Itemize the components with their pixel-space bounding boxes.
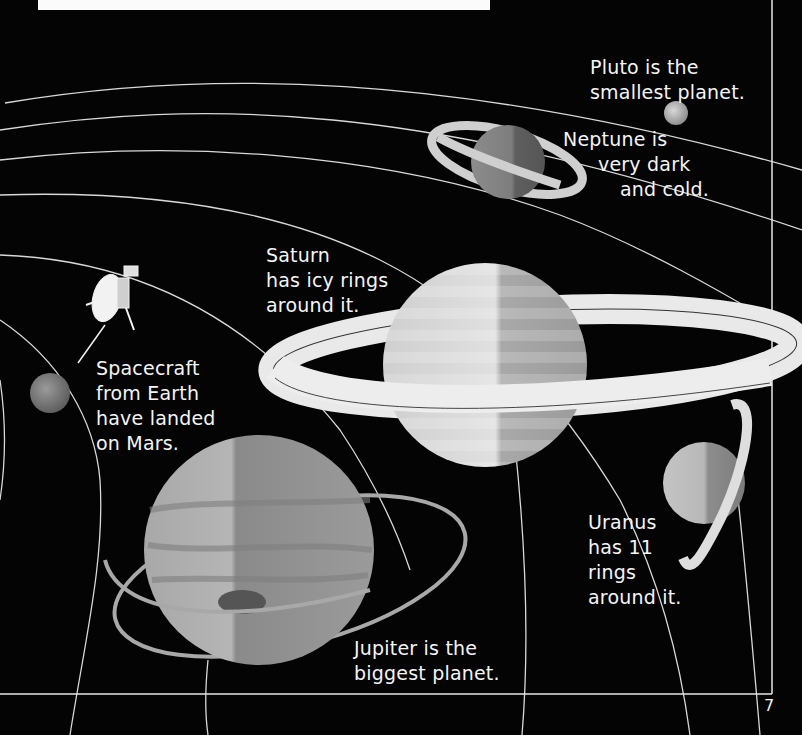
neptune-caption-line2: very dark [598,152,690,177]
neptune-caption-line3: and cold. [620,177,709,202]
uranus-caption: Uranus has 11 rings around it. [588,510,682,610]
spacecraft-caption: Spacecraft from Earth have landed on Mar… [96,356,216,456]
pluto-caption: Pluto is the smallest planet. [590,55,745,105]
mars-icon [30,373,70,413]
saturn-caption: Saturn has icy rings around it. [266,243,388,318]
spacecraft-icon [78,266,138,363]
jupiter-caption: Jupiter is the biggest planet. [354,636,500,686]
page-number: 7 [764,696,774,715]
neptune-caption-line1: Neptune is [563,127,667,152]
